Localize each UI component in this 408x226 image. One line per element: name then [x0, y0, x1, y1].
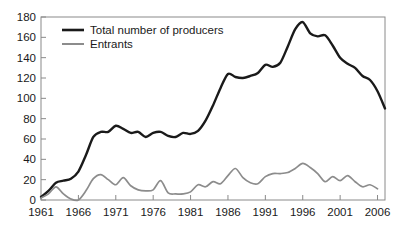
x-tick-label: 1976	[140, 206, 166, 218]
series-line-entrants	[41, 163, 378, 200]
legend-label-entrants: Entrants	[90, 38, 133, 50]
x-tick-label: 1961	[28, 206, 54, 218]
y-tick-label: 120	[17, 72, 36, 84]
x-tick-label: 1971	[103, 206, 129, 218]
chart-container: 020406080100120140160180 196119661971197…	[0, 0, 408, 226]
x-tick-label: 1986	[215, 206, 241, 218]
y-tick-label: 20	[23, 174, 36, 186]
x-tick-label: 1981	[178, 206, 204, 218]
y-axis-ticks	[41, 17, 46, 200]
y-tick-label: 180	[17, 11, 36, 23]
chart-legend: Total number of producersEntrants	[62, 24, 224, 50]
y-axis-tick-labels: 020406080100120140160180	[17, 11, 36, 206]
x-axis-tick-labels: 1961196619711976198119861991199620012006	[28, 206, 390, 218]
x-tick-label: 2001	[327, 206, 353, 218]
legend-label-total-producers: Total number of producers	[90, 24, 224, 36]
line-chart: 020406080100120140160180 196119661971197…	[0, 0, 408, 226]
y-tick-label: 100	[17, 92, 36, 104]
x-tick-label: 1991	[253, 206, 279, 218]
y-tick-label: 40	[23, 153, 36, 165]
y-tick-label: 0	[30, 194, 36, 206]
y-tick-label: 80	[23, 113, 36, 125]
y-tick-label: 60	[23, 133, 36, 145]
y-tick-label: 160	[17, 31, 36, 43]
x-tick-label: 1996	[290, 206, 316, 218]
y-tick-label: 140	[17, 52, 36, 64]
x-tick-label: 2006	[365, 206, 391, 218]
x-tick-label: 1966	[66, 206, 92, 218]
x-axis-ticks	[41, 195, 378, 200]
